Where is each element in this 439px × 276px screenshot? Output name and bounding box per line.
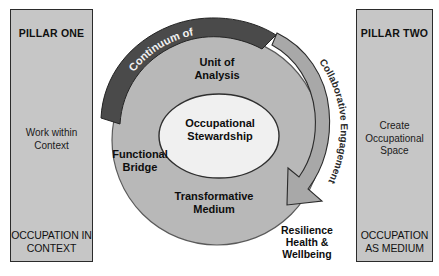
pillar-one-bottom-text: OCCUPATION IN CONTEXT	[11, 229, 92, 254]
pillar-two-title: PILLAR TWO	[361, 27, 428, 39]
pillar-one-title: PILLAR ONE	[19, 27, 85, 39]
pillar-two-bottom-text: OCCUPATION AS MEDIUM	[357, 229, 432, 254]
pillar-one-box: PILLAR ONE Work within Context OCCUPATIO…	[10, 9, 93, 262]
transformative-medium-label: Transformative Medium	[160, 190, 268, 215]
pillar-one-middle-text: Work within Context	[11, 127, 92, 152]
diagram-canvas: Continuum of Collaborative Engagement PI…	[0, 0, 439, 276]
functional-bridge-label: Functional Bridge	[104, 148, 176, 173]
unit-of-analysis-label: Unit of Analysis	[171, 56, 263, 81]
pillar-two-box: PILLAR TWO Create Occupational Space OCC…	[356, 9, 433, 262]
occupational-stewardship-label: Occupational Stewardship	[168, 117, 272, 142]
pillar-two-middle-text: Create Occupational Space	[357, 120, 432, 158]
resilience-health-wellbeing-label: Resilience Health & Wellbeing	[268, 224, 346, 260]
